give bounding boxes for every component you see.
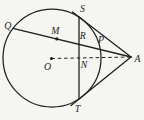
midpoint-dot-m [55,37,58,40]
point-label-a: A [134,53,142,64]
point-label-q: Q [4,20,11,31]
point-label-s: S [80,3,85,14]
point-label-m: M [50,25,60,36]
point-label-r: R [79,30,86,41]
geometry-figure: Q M S R P O N T A [0,0,144,120]
point-label-n: N [80,59,88,70]
geometry-figure-canvas: Q M S R P O N T A [0,0,144,120]
figure-background [0,0,144,120]
point-label-o: O [44,61,51,72]
point-label-p: P [97,34,104,45]
